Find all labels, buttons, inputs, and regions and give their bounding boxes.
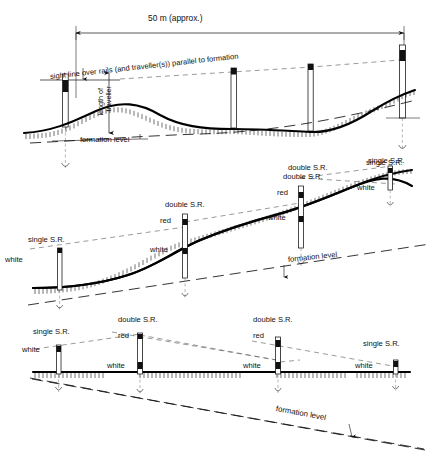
band-white-bot-4: white	[355, 361, 373, 370]
formation-leader-bottom	[349, 424, 352, 437]
dimension-label-50m: 50 m (approx.)	[148, 13, 202, 23]
formation-line-middle	[28, 244, 430, 305]
caption-single-sr-mid-1: single S.R.	[28, 235, 65, 244]
band-red-mid-2: red	[277, 188, 288, 197]
panel-top	[24, 26, 420, 168]
peg-top-3	[308, 64, 313, 131]
ballast-hatch-bottom	[35, 373, 405, 378]
traveller-label: traveller	[104, 86, 113, 112]
diagram-canvas: 50 m (approx.) sight line over rails (an…	[0, 0, 433, 468]
peg-bottom-1	[55, 345, 61, 392]
band-red-bot-2: red	[253, 331, 264, 340]
caption-single-sr-bot-2: single S.R.	[363, 339, 400, 348]
band-white-bot-3: white	[243, 361, 261, 370]
dimension-50m	[76, 26, 404, 98]
band-red-bot-1: red	[118, 331, 129, 340]
caption-double-sr-mid-1: double S.R.	[165, 200, 205, 209]
band-white-mid-3: white	[268, 213, 286, 222]
band-red-mid-1: red	[160, 216, 171, 225]
caption-single-sr-mid-2: single S.R.	[366, 158, 403, 167]
band-white-mid-4: white	[357, 183, 375, 192]
caption-double-sr-bot-2: double S.R.	[253, 315, 293, 324]
track-profile-bottom	[33, 372, 410, 378]
peg-bottom-4	[392, 360, 398, 391]
band-white-bot-1: white	[22, 345, 40, 354]
peg-middle-4	[387, 166, 393, 207]
caption-double-sr-bot-1: double S.R.	[118, 315, 158, 324]
peg-bottom-2	[137, 333, 143, 394]
peg-middle-1	[56, 248, 62, 310]
peg-top-1	[62, 74, 70, 168]
peg-middle-2	[182, 214, 188, 298]
peg-bottom-3	[275, 337, 281, 393]
sight-lines-middle	[30, 166, 396, 249]
ballast-hatch-top	[26, 90, 414, 139]
peg-top-2	[231, 68, 236, 128]
sight-lines-bottom	[35, 332, 398, 367]
formation-level-label-top: formation level	[80, 135, 129, 144]
caption-single-sr-bot-1: single S.R.	[33, 327, 70, 336]
caption-double-sr-mid-2: double S.R.	[283, 172, 323, 181]
panel-bottom	[30, 332, 425, 450]
band-white-bot-2: white	[107, 361, 125, 370]
band-white-mid-1: white	[5, 255, 23, 264]
band-white-mid-2: white	[150, 245, 168, 254]
caption-double-sr-top: double S.R.	[288, 163, 328, 172]
track-profile-top	[24, 90, 415, 139]
formation-line-bottom-b	[32, 379, 424, 449]
